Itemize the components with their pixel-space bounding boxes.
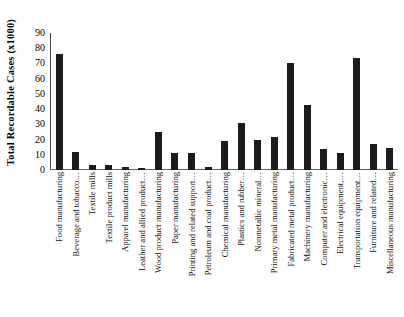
x-label-slot: Apparel manufacturing [117,172,134,304]
x-axis-category-label: Miscellaneous manufacturing [385,172,394,274]
x-axis-category-label: Printing and related support… [187,172,196,276]
x-label-slot: Food manufacturing [51,172,68,304]
x-axis-category-labels: Food manufacturingBeverage and tobacco…T… [51,172,398,304]
bar [155,132,162,170]
bar-slot [349,33,366,170]
x-label-slot: Electrical equipment,… [332,172,349,304]
x-label-slot: Furniture and related… [365,172,382,304]
plot-area: 9080706050403020100 Food manufacturingBe… [24,0,404,317]
bar-slot [316,33,333,170]
bar [254,140,261,170]
x-axis-category-label: Petroleum and coal product… [204,172,213,275]
x-axis-category-label: Plastics and rubber… [237,172,246,246]
x-axis-category-label: Transportation equipment… [352,172,361,269]
x-axis-category-label: Machinery manufacturing [303,172,312,261]
bar-slot [51,33,68,170]
bar-slot [216,33,233,170]
x-label-slot: Plastics and rubber… [233,172,250,304]
bar-series [51,33,398,170]
x-axis-category-label: Apparel manufacturing [121,172,130,252]
x-label-slot: Petroleum and coal product… [200,172,217,304]
x-label-slot: Wood product manufacturing [150,172,167,304]
bar [337,153,344,171]
bar-slot [365,33,382,170]
bar [138,168,145,170]
x-label-slot: Fabricated metal product… [282,172,299,304]
y-axis-title: Total Recordable Cases (x1000) [0,0,22,185]
x-axis-category-label: Electrical equipment,… [336,172,345,254]
bar-slot [200,33,217,170]
x-axis-category-label: Nonmetallic mineral… [253,172,262,251]
bar-slot [101,33,118,170]
x-axis-category-label: Fabricated metal product… [286,172,295,267]
y-axis-tick-label: 70 [35,58,45,68]
x-label-slot: Beverage and tobacco… [68,172,85,304]
y-axis-tick-label: 0 [40,165,45,175]
bar [171,153,178,170]
y-axis-title-text: Total Recordable Cases (x1000) [6,19,17,166]
x-label-slot: Paper manufacturing [167,172,184,304]
x-label-slot: Computer and electronic… [316,172,333,304]
x-label-slot: Nonmetallic mineral… [249,172,266,304]
bar [221,141,228,170]
x-axis-category-label: Food manufacturing [55,172,64,242]
x-label-slot: Printing and related support… [183,172,200,304]
bar [56,54,63,170]
bar-slot [299,33,316,170]
bar [238,123,245,170]
bar [320,149,327,170]
x-label-slot: Leather and allied product… [134,172,151,304]
x-axis-category-label: Textile mills [88,172,97,215]
y-axis-tick-label: 40 [35,104,45,114]
y-axis-tick-label: 60 [35,74,45,84]
bar-slot [282,33,299,170]
bar-slot [68,33,85,170]
x-label-slot: Primary metal manufacturing [266,172,283,304]
bar [370,144,377,170]
x-axis-category-label: Chemical manufacturing [220,172,229,257]
bar [304,105,311,170]
bar-slot [84,33,101,170]
bar-slot [183,33,200,170]
bar-slot [150,33,167,170]
bar [89,165,96,170]
bar-slot [266,33,283,170]
x-label-slot: Textile product mills [101,172,118,304]
bar [122,167,129,170]
bar-slot [332,33,349,170]
bar [188,153,195,170]
y-axis-tick-label: 30 [35,119,45,129]
y-axis-tick-label: 50 [35,89,45,99]
y-axis-tick-label: 20 [35,135,45,145]
x-axis-category-label: Wood product manufacturing [154,172,163,273]
bar-slot [167,33,184,170]
x-label-slot: Transportation equipment… [349,172,366,304]
bar-slot [117,33,134,170]
bar [386,148,393,170]
x-label-slot: Chemical manufacturing [216,172,233,304]
bar [205,167,212,170]
bar-slot [249,33,266,170]
x-label-slot: Textile mills [84,172,101,304]
x-axis-category-label: Computer and electronic… [319,172,328,266]
x-axis-category-label: Beverage and tobacco… [71,172,80,256]
y-axis-tick-label: 80 [35,43,45,53]
bar-slot [233,33,250,170]
x-axis-category-label: Paper manufacturing [170,172,179,244]
bar-slot [134,33,151,170]
bar [72,152,79,170]
x-axis-category-label: Leather and allied product… [137,172,146,271]
x-axis-category-label: Furniture and related… [369,172,378,253]
x-label-slot: Miscellaneous manufacturing [382,172,399,304]
x-axis-category-label: Primary metal manufacturing [270,172,279,273]
x-axis-category-label: Textile product mills [104,172,113,243]
bar-chart-figure: Total Recordable Cases (x1000) 908070605… [0,0,404,317]
y-axis-tick-label: 90 [35,28,45,38]
x-label-slot: Machinery manufacturing [299,172,316,304]
bar [271,137,278,170]
y-axis-tick-labels: 9080706050403020100 [24,0,48,185]
y-axis-tick-label: 10 [35,150,45,160]
bar [105,165,112,170]
bar-slot [382,33,399,170]
bar [287,63,294,170]
